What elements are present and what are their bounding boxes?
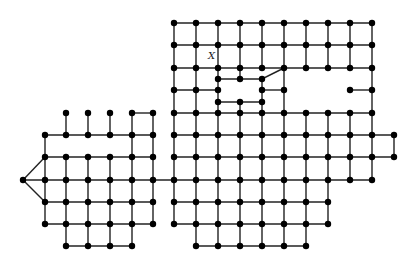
- graph-vertex: [85, 243, 91, 249]
- graph-vertex: [281, 20, 287, 26]
- graph-vertex: [215, 154, 221, 160]
- vertex-label-x: X: [207, 50, 216, 61]
- graph-vertex: [281, 65, 287, 71]
- graph-vertex: [347, 42, 353, 48]
- graph-vertex: [193, 20, 199, 26]
- graph-vertex: [193, 243, 199, 249]
- graph-vertex: [281, 199, 287, 205]
- graph-vertex: [303, 65, 309, 71]
- graph-vertex: [325, 221, 331, 227]
- graph-vertex: [303, 132, 309, 138]
- graph-vertex: [63, 221, 69, 227]
- graph-vertex: [129, 243, 135, 249]
- graph-vertex: [325, 154, 331, 160]
- graph-vertex: [107, 110, 113, 116]
- graph-vertex: [303, 199, 309, 205]
- graph-vertex: [259, 154, 265, 160]
- graph-vertex: [85, 221, 91, 227]
- graph-vertex: [237, 99, 243, 105]
- graph-vertex: [215, 42, 221, 48]
- graph-vertex: [193, 177, 199, 183]
- graph-vertex: [215, 199, 221, 205]
- graph-vertex: [237, 154, 243, 160]
- graph-vertex: [259, 87, 265, 93]
- graph-vertex: [259, 110, 265, 116]
- graph-vertex: [42, 199, 48, 205]
- graph-vertex: [171, 132, 177, 138]
- graph-vertex: [193, 110, 199, 116]
- graph-vertex: [369, 65, 375, 71]
- graph-vertex: [171, 42, 177, 48]
- graph-vertex: [237, 42, 243, 48]
- graph-vertex: [150, 177, 156, 183]
- graph-vertex: [325, 42, 331, 48]
- graph-edge: [23, 180, 45, 202]
- graph-vertex: [63, 132, 69, 138]
- graph-vertex: [303, 20, 309, 26]
- graph-vertex: [215, 76, 221, 82]
- graph-vertex: [215, 221, 221, 227]
- graph-vertex: [347, 154, 353, 160]
- graph-vertex: [20, 177, 26, 183]
- graph-vertex: [303, 110, 309, 116]
- graph-vertex: [237, 20, 243, 26]
- graph-vertex: [303, 42, 309, 48]
- graph-vertex: [85, 132, 91, 138]
- graph-vertex: [215, 65, 221, 71]
- graph-vertex: [259, 99, 265, 105]
- graph-vertex: [281, 243, 287, 249]
- graph-vertex: [107, 199, 113, 205]
- graph-vertex: [259, 177, 265, 183]
- graph-vertex: [85, 177, 91, 183]
- graph-vertex: [63, 110, 69, 116]
- graph-vertex: [281, 110, 287, 116]
- graph-vertex: [63, 154, 69, 160]
- graph-vertex: [107, 221, 113, 227]
- graph-vertex: [281, 87, 287, 93]
- graph-vertex: [391, 132, 397, 138]
- graph-vertex: [325, 199, 331, 205]
- graph-vertex: [281, 132, 287, 138]
- graph-vertex: [347, 65, 353, 71]
- graph-vertex: [171, 154, 177, 160]
- graph-vertex: [259, 221, 265, 227]
- graph-vertex: [171, 87, 177, 93]
- graph-vertex: [193, 65, 199, 71]
- graph-vertex: [369, 42, 375, 48]
- graph-vertex: [347, 177, 353, 183]
- graph-vertex: [150, 110, 156, 116]
- graph-vertex: [369, 177, 375, 183]
- graph-vertex: [347, 20, 353, 26]
- graph-vertex: [42, 132, 48, 138]
- graph-vertex: [369, 87, 375, 93]
- graph-vertex: [107, 154, 113, 160]
- graph-vertex: [171, 110, 177, 116]
- graph-vertex: [259, 199, 265, 205]
- graph-vertex: [85, 110, 91, 116]
- graph-vertex: [42, 221, 48, 227]
- graph-vertex: [281, 177, 287, 183]
- graph-vertex: [150, 154, 156, 160]
- graph-vertex: [129, 199, 135, 205]
- graph-vertex: [237, 132, 243, 138]
- graph-vertex: [85, 154, 91, 160]
- graph-vertex: [85, 199, 91, 205]
- graph-vertex: [347, 110, 353, 116]
- graph-vertex: [259, 132, 265, 138]
- graph-vertex: [281, 42, 287, 48]
- graph-vertex: [171, 65, 177, 71]
- graph-vertex: [281, 221, 287, 227]
- graph-vertex: [237, 65, 243, 71]
- graph-vertex: [193, 221, 199, 227]
- graph-vertex: [129, 177, 135, 183]
- graph-vertex: [369, 154, 375, 160]
- graph-vertex: [303, 243, 309, 249]
- graph-vertex: [237, 76, 243, 82]
- graph-vertex: [281, 154, 287, 160]
- graph-vertex: [63, 199, 69, 205]
- graph-vertex: [369, 110, 375, 116]
- graph-vertex: [63, 243, 69, 249]
- graph-vertex: [193, 42, 199, 48]
- graph-vertex: [237, 243, 243, 249]
- graph-vertex: [171, 199, 177, 205]
